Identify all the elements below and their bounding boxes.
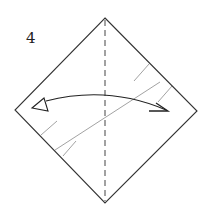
origami-step-diagram: 4 bbox=[0, 0, 210, 212]
paper-outline bbox=[15, 18, 197, 203]
fold-and-unfold-arrow bbox=[32, 95, 168, 111]
hatch-line bbox=[134, 64, 149, 81]
arrow-shaft bbox=[46, 95, 166, 110]
hatch-line bbox=[41, 121, 57, 135]
step-number: 4 bbox=[26, 29, 36, 47]
diagonal-crease-line bbox=[55, 82, 160, 150]
hatch-line bbox=[158, 86, 172, 102]
shading-hatches-lower-left bbox=[41, 121, 76, 156]
shading-hatches-upper-right bbox=[134, 64, 172, 102]
arrow-head-hollow-icon bbox=[32, 98, 48, 111]
